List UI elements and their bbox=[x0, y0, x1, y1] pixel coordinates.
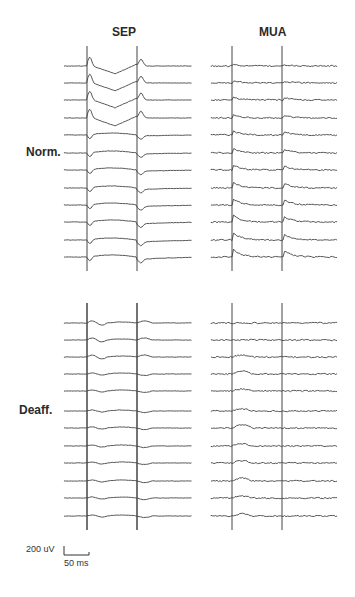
scale-bar-icon bbox=[0, 0, 355, 597]
